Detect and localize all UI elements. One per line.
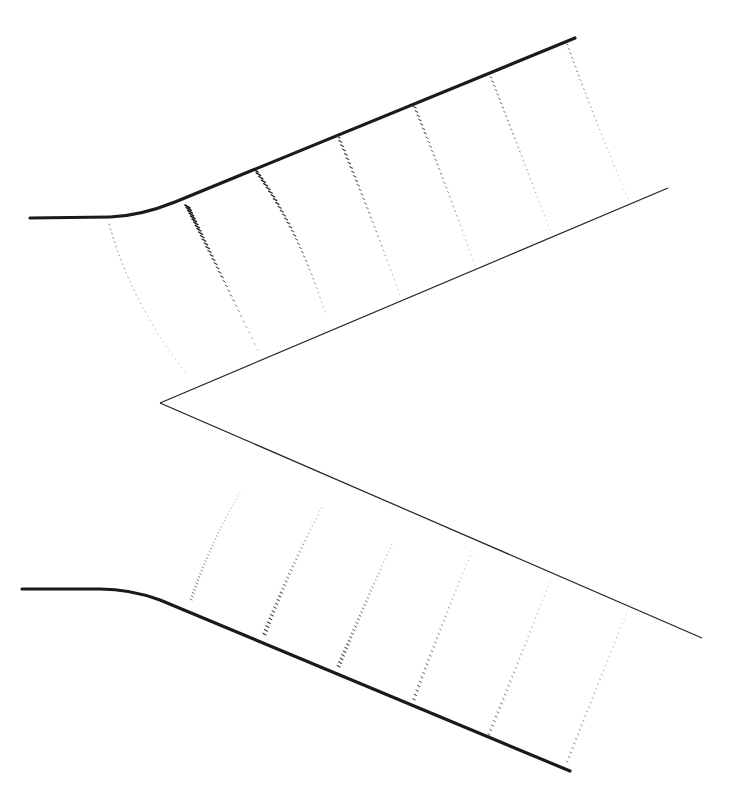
velocity-vector bbox=[132, 286, 133, 287]
velocity-vector bbox=[120, 260, 121, 261]
velocity-vector bbox=[503, 699, 505, 700]
velocity-vector bbox=[492, 725, 494, 726]
velocity-vector bbox=[368, 212, 370, 213]
velocity-vector bbox=[526, 169, 527, 170]
velocity-vector bbox=[512, 676, 513, 677]
velocity-vector bbox=[530, 179, 531, 180]
velocity-vector bbox=[372, 587, 373, 588]
velocity-vector bbox=[519, 659, 520, 660]
velocity-vector bbox=[578, 75, 579, 76]
velocity-vector bbox=[387, 260, 388, 261]
velocity-vector bbox=[354, 626, 356, 627]
velocity-vector bbox=[264, 184, 268, 186]
velocity-vector bbox=[350, 167, 353, 169]
velocity-vector bbox=[493, 85, 495, 86]
velocity-vector bbox=[359, 189, 361, 190]
velocity-vector bbox=[516, 142, 517, 143]
velocity-vector bbox=[130, 281, 131, 282]
velocity-vector bbox=[263, 633, 266, 635]
velocity-vector bbox=[596, 120, 597, 121]
velocity-vector bbox=[294, 562, 296, 563]
lower-profile-2 bbox=[263, 508, 322, 635]
velocity-vector bbox=[339, 662, 342, 664]
velocity-vector bbox=[208, 251, 211, 253]
velocity-vector bbox=[440, 173, 442, 174]
velocity-vector bbox=[299, 551, 300, 552]
velocity-vector bbox=[429, 146, 431, 147]
velocity-vector bbox=[594, 693, 595, 694]
velocity-vector bbox=[243, 321, 244, 322]
velocity-vector bbox=[372, 222, 374, 223]
velocity-vector bbox=[375, 580, 376, 581]
velocity-vector bbox=[532, 627, 533, 628]
velocity-vector bbox=[277, 599, 279, 600]
velocity-vector bbox=[301, 252, 303, 253]
velocity-vector bbox=[109, 224, 110, 225]
velocity-vector bbox=[416, 690, 418, 691]
inner-wall-lower-branch bbox=[160, 403, 702, 638]
velocity-vector bbox=[447, 612, 448, 613]
velocity-vector bbox=[337, 665, 340, 667]
velocity-vector bbox=[433, 155, 435, 156]
velocity-vector bbox=[423, 672, 425, 673]
velocity-vector bbox=[303, 544, 304, 545]
velocity-vector bbox=[497, 712, 499, 713]
velocity-vector bbox=[568, 757, 570, 758]
velocity-vector bbox=[210, 255, 213, 257]
velocity-vector bbox=[193, 593, 195, 594]
velocity-vector bbox=[306, 537, 307, 538]
velocity-vector bbox=[230, 295, 232, 296]
velocity-vector bbox=[382, 566, 383, 567]
velocity-vector bbox=[339, 141, 342, 143]
velocity-vector bbox=[523, 160, 524, 161]
velocity-vector bbox=[511, 129, 512, 130]
velocity-vector bbox=[426, 137, 428, 138]
velocity-vector bbox=[592, 698, 593, 699]
velocity-vector bbox=[450, 603, 451, 604]
velocity-vector bbox=[505, 116, 507, 117]
velocity-vector bbox=[202, 567, 203, 568]
inner-wall-upper-branch bbox=[160, 188, 668, 403]
velocity-vector bbox=[320, 297, 321, 298]
velocity-vector bbox=[214, 263, 217, 265]
velocity-vector bbox=[361, 194, 363, 195]
velocity-vector bbox=[506, 690, 508, 691]
velocity-vector bbox=[590, 702, 591, 703]
velocity-vector bbox=[316, 288, 317, 289]
velocity-vector bbox=[418, 686, 420, 687]
upper-profile-4 bbox=[337, 136, 400, 295]
lower-profile-6 bbox=[567, 605, 631, 762]
velocity-vector bbox=[340, 658, 343, 660]
velocity-vector bbox=[223, 281, 225, 282]
velocity-vector bbox=[221, 527, 222, 528]
velocity-vector bbox=[422, 128, 424, 129]
velocity-vector bbox=[414, 694, 416, 695]
velocity-vector bbox=[196, 583, 198, 584]
velocity-vector bbox=[577, 734, 578, 735]
velocity-vector bbox=[445, 616, 446, 617]
velocity-vector bbox=[510, 681, 512, 682]
velocity-vector bbox=[284, 585, 286, 586]
velocity-vector bbox=[456, 590, 457, 591]
velocity-vector bbox=[321, 302, 322, 303]
velocity-vector bbox=[348, 640, 350, 641]
velocity-vector bbox=[413, 107, 416, 109]
velocity-vector bbox=[314, 283, 315, 284]
velocity-vector bbox=[598, 684, 599, 685]
velocity-vector bbox=[266, 187, 270, 189]
velocity-vector bbox=[367, 598, 369, 599]
velocity-vector bbox=[576, 739, 577, 740]
velocity-vector bbox=[583, 89, 584, 90]
velocity-vector bbox=[568, 49, 570, 50]
velocity-vector bbox=[278, 206, 281, 208]
velocity-vector bbox=[363, 198, 365, 199]
upper-profile-5 bbox=[413, 107, 475, 266]
velocity-vector bbox=[209, 551, 210, 552]
velocity-vector bbox=[424, 668, 426, 669]
velocity-vector bbox=[451, 201, 452, 202]
velocity-vector bbox=[358, 619, 360, 620]
velocity-vector bbox=[279, 596, 281, 597]
velocity-vector bbox=[435, 642, 437, 643]
velocity-vector bbox=[501, 703, 503, 704]
velocity-vector bbox=[440, 629, 441, 630]
